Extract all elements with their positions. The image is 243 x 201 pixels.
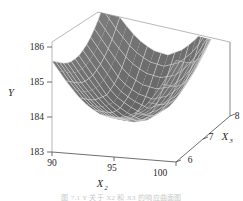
- y-tick-label-185: 185: [30, 77, 45, 87]
- x2-tick-label-90: 90: [47, 158, 57, 168]
- x3-tick-label-8: 8: [235, 111, 240, 121]
- y-axis-title: Y: [8, 87, 15, 98]
- y-axis-ticks: [47, 47, 52, 152]
- y-tick-label-184: 184: [30, 112, 45, 122]
- x2-tick-label-95: 95: [107, 163, 117, 173]
- x3-tick-label-6: 6: [188, 155, 193, 165]
- x3-axis-title: X: [221, 131, 229, 142]
- x2-axis-subscript: 2: [104, 184, 108, 191]
- y-tick-label-186: 186: [30, 42, 45, 52]
- surface-plot-canvas: 186 185 184 183 Y 90 95 100 X 2 6 7 8 X …: [0, 0, 243, 201]
- x2-axis-title: X: [96, 178, 104, 189]
- figure-caption: 图 7.1 Y 关于 X2 和 X3 的响应曲面图: [0, 192, 243, 201]
- y-tick-label-183: 183: [30, 147, 45, 157]
- surface-mesh: [52, 0, 230, 122]
- x3-tick-label-7: 7: [209, 132, 214, 142]
- x2-tick-label-100: 100: [153, 168, 168, 178]
- response-surface-figure: 186 185 184 183 Y 90 95 100 X 2 6 7 8 X …: [0, 0, 243, 201]
- x3-axis-subscript: 3: [228, 137, 233, 144]
